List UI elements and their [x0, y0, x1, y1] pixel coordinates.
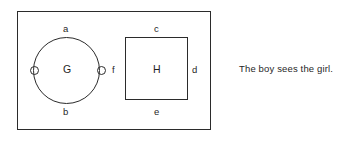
edge-label-b: b [63, 107, 68, 117]
node-marker-right-icon [97, 66, 106, 75]
diagram-canvas: G H a b c d e f The boy sees the girl. [0, 0, 359, 144]
edge-label-d: d [192, 65, 197, 75]
edge-label-e: e [154, 107, 159, 117]
edge-label-a: a [63, 24, 68, 34]
edge-label-f: f [112, 65, 115, 75]
shape-label-g: G [63, 64, 71, 75]
shape-label-h: H [153, 64, 161, 75]
diagram-caption: The boy sees the girl. [239, 64, 333, 74]
node-marker-left-icon [30, 66, 39, 75]
edge-label-c: c [154, 24, 159, 34]
